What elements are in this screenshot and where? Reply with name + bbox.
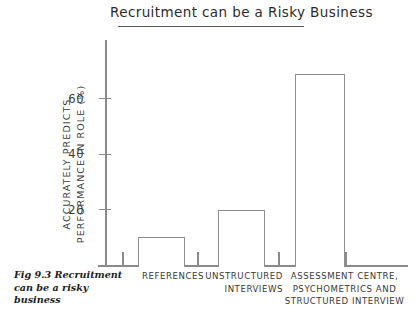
x-tick-mark-6 <box>345 252 347 266</box>
y-tick-label-wrap-20: 20 <box>50 203 84 217</box>
x-category-label-assessment-centre: ASSESSMENT CENTRE, PSYCHOMETRICS AND STR… <box>282 270 407 308</box>
x-category-label-references: REFERENCES <box>133 270 213 283</box>
x-tick-mark-2 <box>197 252 199 266</box>
x-category-label-assessment-line-3: STRUCTURED INTERVIEW <box>282 295 407 308</box>
bar-unstructured-interviews <box>218 210 265 267</box>
y-tick-label-40: 40 <box>50 147 84 161</box>
x-tick-mark-0 <box>122 252 124 266</box>
y-tick-mark-20 <box>99 209 111 210</box>
x-category-label-assessment-line-1: ASSESSMENT CENTRE, <box>282 270 407 283</box>
figure-caption-line-2: can be a risky business <box>14 282 134 307</box>
y-tick-mark-60 <box>99 98 111 99</box>
bar-references <box>138 237 185 266</box>
y-tick-mark-40 <box>99 154 111 155</box>
figure-caption: Fig 9.3 Recruitment can be a risky busin… <box>14 269 134 307</box>
figure-caption-line-1: Fig 9.3 Recruitment <box>14 269 134 282</box>
bar-assessment-centre <box>295 74 345 267</box>
y-tick-label-60: 60 <box>50 92 84 106</box>
x-category-label-unstructured-interviews: UNSTRUCTURED INTERVIEWS <box>205 270 283 295</box>
y-tick-label-wrap-40: 40 <box>50 147 84 161</box>
x-tick-mark-4 <box>278 252 280 266</box>
figure-recruitment-risky-business: Recruitment can be a Risky Business ACCU… <box>0 0 419 327</box>
x-category-label-unstructured-line-2: INTERVIEWS <box>205 283 283 296</box>
chart-title: Recruitment can be a Risky Business <box>110 4 310 20</box>
x-category-label-assessment-line-2: PSYCHOMETRICS AND <box>282 283 407 296</box>
title-underline <box>118 26 304 27</box>
y-tick-label-wrap-60: 60 <box>50 92 84 106</box>
x-category-label-unstructured-line-1: UNSTRUCTURED <box>205 270 283 283</box>
y-tick-label-20: 20 <box>50 203 84 217</box>
x-category-label-references-line-1: REFERENCES <box>133 270 213 283</box>
